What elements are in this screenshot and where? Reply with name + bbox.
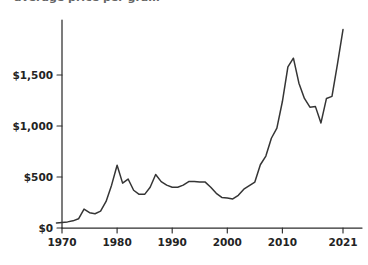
y-tick-label-500: $500	[24, 171, 53, 183]
chart-container: average price per gram $0$500$1,000$1,50…	[0, 0, 368, 265]
x-axis-ticks	[62, 228, 343, 233]
x-tick-label-2010: 2010	[268, 236, 297, 248]
x-tick-label-2021: 2021	[328, 236, 357, 248]
y-tick-label-1000: $1,000	[12, 120, 53, 132]
x-tick-label-1990: 1990	[158, 236, 187, 248]
x-axis-tick-labels: 197019801990200020102021	[47, 236, 357, 248]
x-tick-label-1980: 1980	[102, 236, 131, 248]
y-tick-label-1500: $1,500	[12, 69, 53, 81]
y-axis-ticks	[57, 75, 62, 228]
line-chart-plot: $0$500$1,000$1,500 197019801990200020102…	[0, 0, 368, 265]
y-axis-tick-labels: $0$500$1,000$1,500	[12, 69, 53, 234]
price-series-line	[56, 30, 343, 223]
x-tick-label-2000: 2000	[213, 236, 242, 248]
x-tick-label-1970: 1970	[47, 236, 76, 248]
y-tick-label-0: $0	[38, 222, 53, 234]
